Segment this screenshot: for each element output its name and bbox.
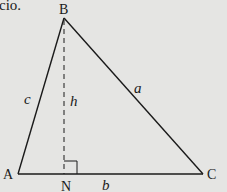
label-foot-n: N	[61, 179, 71, 192]
label-vertex-a: A	[3, 167, 14, 182]
label-vertex-c: C	[207, 167, 216, 182]
side-a	[64, 18, 203, 174]
label-vertex-b: B	[59, 2, 68, 17]
label-side-h: h	[70, 93, 78, 109]
label-side-a: a	[134, 80, 142, 96]
right-angle-marker	[64, 161, 77, 174]
triangle-diagram: B A C N c h a b	[0, 0, 227, 192]
label-side-c: c	[24, 91, 31, 107]
label-side-b: b	[102, 177, 110, 192]
